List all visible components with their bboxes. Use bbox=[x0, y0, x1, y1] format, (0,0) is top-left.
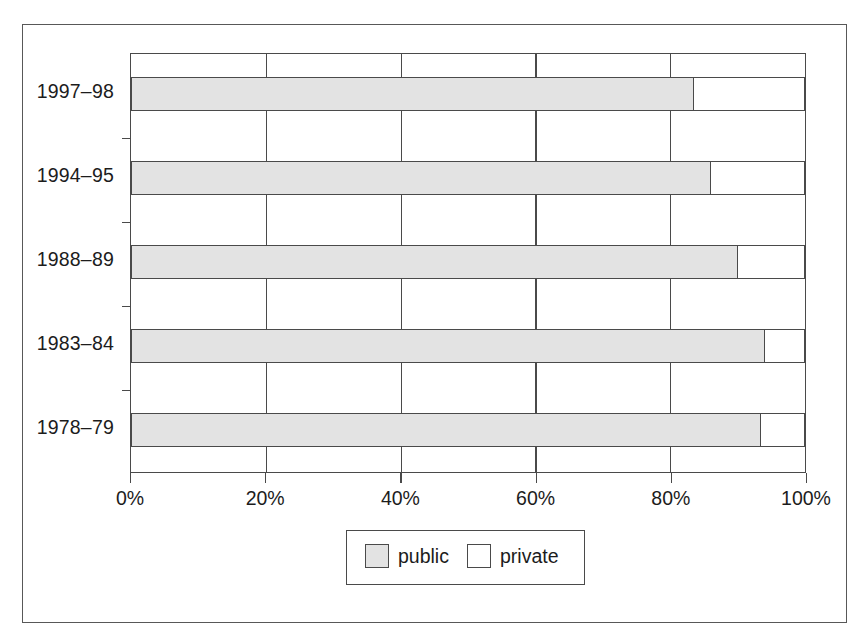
y-axis-tick bbox=[122, 390, 131, 391]
y-axis-tick bbox=[122, 306, 131, 307]
bar-row-1988-89 bbox=[131, 245, 805, 279]
x-axis-tick bbox=[536, 473, 537, 483]
x-axis-label-0: 0% bbox=[70, 487, 190, 510]
bar-row-1978-79 bbox=[131, 413, 805, 447]
x-axis-tick bbox=[671, 473, 672, 483]
legend-swatch-public bbox=[365, 544, 389, 568]
x-axis-label-100: 100% bbox=[746, 487, 866, 510]
bar-segment-public[interactable] bbox=[131, 161, 711, 195]
legend-label-private: private bbox=[500, 545, 559, 568]
bar-segment-public[interactable] bbox=[131, 413, 761, 447]
x-axis-tick bbox=[400, 473, 401, 483]
y-axis-tick bbox=[122, 138, 131, 139]
legend-swatch-private bbox=[467, 544, 491, 568]
bar-segment-private[interactable] bbox=[711, 161, 805, 195]
x-axis-tick bbox=[265, 473, 266, 483]
y-axis-label-1978-79: 1978–79 bbox=[0, 416, 114, 439]
x-axis-tick bbox=[130, 473, 131, 483]
bar-row-1983-84 bbox=[131, 329, 805, 363]
chart-legend: public private bbox=[346, 530, 585, 585]
bar-segment-public[interactable] bbox=[131, 77, 694, 111]
y-axis-label-1988-89: 1988–89 bbox=[0, 248, 114, 271]
legend-item-public[interactable]: public bbox=[365, 544, 449, 568]
bar-segment-private[interactable] bbox=[765, 329, 805, 363]
bar-segment-private[interactable] bbox=[694, 77, 805, 111]
chart-figure: 1997–98 1994–95 1988–89 1983–84 1978–79 … bbox=[0, 0, 866, 638]
x-axis-tick bbox=[806, 473, 807, 483]
bar-row-1994-95 bbox=[131, 161, 805, 195]
y-axis-label-1997-98: 1997–98 bbox=[0, 80, 114, 103]
y-axis-tick bbox=[122, 222, 131, 223]
bar-segment-private[interactable] bbox=[738, 245, 805, 279]
x-axis-label-40: 40% bbox=[340, 487, 460, 510]
x-axis-label-80: 80% bbox=[611, 487, 731, 510]
legend-item-private[interactable]: private bbox=[467, 544, 559, 568]
legend-label-public: public bbox=[398, 545, 449, 568]
bar-segment-public[interactable] bbox=[131, 245, 738, 279]
plot-area bbox=[130, 53, 806, 473]
bar-segment-private[interactable] bbox=[761, 413, 805, 447]
y-axis-label-1994-95: 1994–95 bbox=[0, 164, 114, 187]
x-axis-label-20: 20% bbox=[205, 487, 325, 510]
y-axis-label-1983-84: 1983–84 bbox=[0, 332, 114, 355]
x-axis-label-60: 60% bbox=[476, 487, 596, 510]
bar-row-1997-98 bbox=[131, 77, 805, 111]
bar-segment-public[interactable] bbox=[131, 329, 765, 363]
